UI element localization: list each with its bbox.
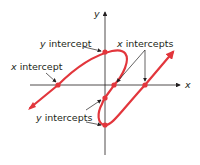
y-axis-label: y: [93, 8, 100, 19]
label-y-intercepts: y intercepts: [35, 112, 92, 123]
x-intercept-left-point: [55, 82, 60, 87]
y-intercept-bottom-point: [102, 122, 107, 127]
pointer-y-intercepts-1: [86, 100, 101, 110]
y-intercept-top-point: [102, 49, 107, 54]
pointer-x-intercepts-1: [117, 50, 145, 82]
y-intercept-mid-point: [102, 95, 107, 100]
x-axis-label: x: [184, 79, 191, 90]
x-intercept-2-point: [142, 82, 147, 87]
label-y-intercept-top: y intercept: [39, 38, 92, 49]
pointer-x-intercept-left: [46, 73, 56, 82]
label-x-intercept-left: x intercept: [10, 61, 63, 72]
x-intercept-1-point: [111, 82, 116, 87]
label-x-intercepts: x intercepts: [116, 38, 173, 49]
intercepts-diagram: x y y intercept x intercept x intercepts…: [0, 0, 200, 165]
